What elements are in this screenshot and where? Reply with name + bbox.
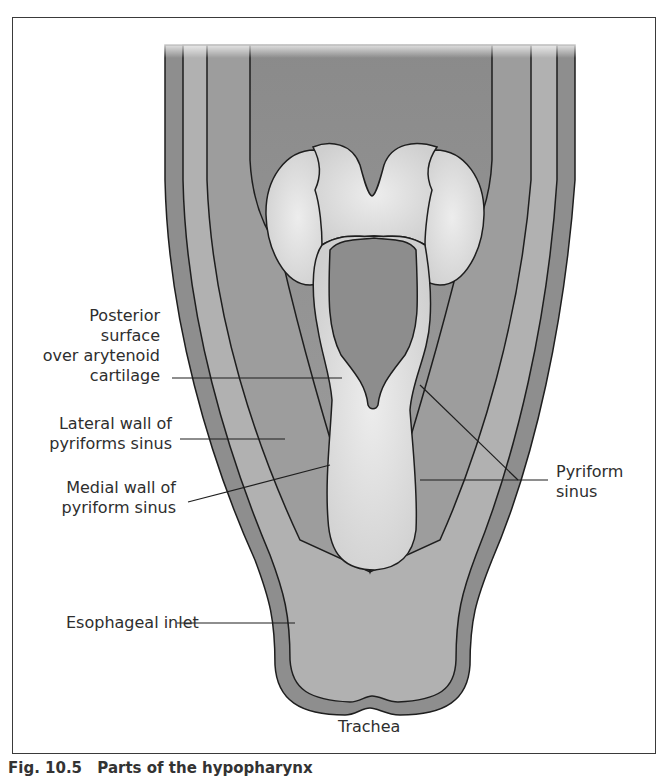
label-line: Pyriform — [556, 462, 623, 482]
label-line: surface — [40, 326, 160, 346]
label-trachea: Trachea — [338, 717, 400, 737]
label-medial-wall: Medial wall of pyriform sinus — [30, 478, 176, 518]
label-line: Medial wall of — [30, 478, 176, 498]
caption-number: Fig. 10.5 — [8, 759, 82, 777]
label-line: Posterior — [40, 306, 160, 326]
label-line: cartilage — [40, 366, 160, 386]
label-line: pyriform sinus — [30, 498, 176, 518]
label-line: sinus — [556, 482, 623, 502]
label-line: pyriforms sinus — [20, 434, 172, 454]
label-line: Lateral wall of — [20, 414, 172, 434]
figure-caption: Fig. 10.5 Parts of the hypopharynx — [8, 759, 313, 777]
label-lateral-wall: Lateral wall of pyriforms sinus — [20, 414, 172, 454]
label-line: over arytenoid — [40, 346, 160, 366]
label-esophageal-inlet: Esophageal inlet — [66, 613, 199, 633]
label-posterior-surface: Posterior surface over arytenoid cartila… — [40, 306, 160, 386]
label-pyriform-sinus: Pyriform sinus — [556, 462, 623, 502]
caption-text: Parts of the hypopharynx — [97, 759, 312, 777]
